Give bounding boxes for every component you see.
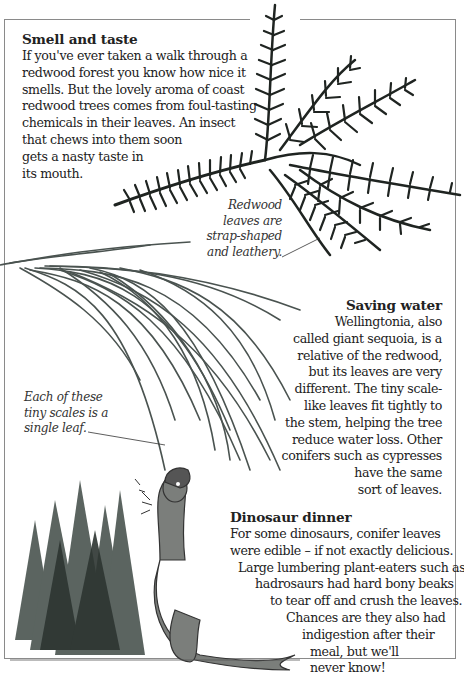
- body-line: sort of leaves.: [240, 482, 442, 499]
- body-line: If you've ever taken a walk through a: [22, 48, 262, 65]
- body-line: chemicals in their leaves. An insect: [22, 115, 262, 132]
- body-line: smells. But the lovely aroma of coast: [22, 82, 262, 99]
- body-line: but its leaves are very: [240, 364, 442, 381]
- body-line: its mouth.: [22, 166, 262, 183]
- body-line: indigestion after their: [230, 627, 450, 644]
- body-line: never know!: [230, 660, 450, 677]
- section-body: For some dinosaurs, conifer leaves were …: [230, 526, 450, 677]
- caption-line: and leathery.: [200, 245, 282, 261]
- body-line: Wellingtonia, also: [240, 314, 442, 331]
- body-line: reduce water loss. Other: [240, 432, 442, 449]
- saving-water-section: Saving water Wellingtonia, also called g…: [240, 297, 442, 499]
- body-line: Chances are they also had: [230, 610, 450, 627]
- section-title: Smell and taste: [22, 31, 262, 48]
- body-line: Large lumbering plant-eaters such as: [230, 560, 450, 577]
- caption-line: single leaf.: [24, 421, 124, 437]
- smell-and-taste-section: Smell and taste If you've ever taken a w…: [22, 31, 262, 182]
- dinosaur-dinner-section: Dinosaur dinner For some dinosaurs, coni…: [230, 509, 450, 677]
- body-line: For some dinosaurs, conifer leaves: [230, 526, 450, 543]
- body-line: hadrosaurs had hard bony beaks: [230, 576, 450, 593]
- caption-line: tiny scales is a: [24, 406, 124, 422]
- body-line: called giant sequoia, is a: [240, 331, 442, 348]
- body-line: were edible – if not exactly delicious.: [230, 543, 450, 560]
- body-line: like leaves fit tightly to: [240, 398, 442, 415]
- section-body: If you've ever taken a walk through a re…: [22, 48, 262, 182]
- caption-line: strap-shaped: [200, 229, 282, 245]
- body-line: conifers such as cypresses: [240, 448, 442, 465]
- section-title: Saving water: [240, 297, 442, 314]
- body-line: different. The tiny scale-: [240, 381, 442, 398]
- body-line: redwood forest you know how nice it: [22, 65, 262, 82]
- body-line: that chews into them soon: [22, 132, 262, 149]
- redwood-caption: Redwood leaves are strap-shaped and leat…: [200, 198, 282, 260]
- caption-line: leaves are: [200, 214, 282, 230]
- section-title: Dinosaur dinner: [230, 509, 450, 526]
- body-line: the stem, helping the tree: [240, 415, 442, 432]
- body-line: to tear off and crush the leaves.: [230, 593, 450, 610]
- body-line: relative of the redwood,: [240, 348, 442, 365]
- body-line: redwood trees comes from foul-tasting: [22, 98, 262, 115]
- section-body: Wellingtonia, also called giant sequoia,…: [240, 314, 442, 499]
- body-line: meal, but we'll: [230, 644, 450, 661]
- body-line: gets a nasty taste in: [22, 149, 262, 166]
- caption-line: Redwood: [200, 198, 282, 214]
- caption-line: Each of these: [24, 390, 124, 406]
- body-line: have the same: [240, 465, 442, 482]
- sequoia-caption: Each of these tiny scales is a single le…: [24, 390, 124, 437]
